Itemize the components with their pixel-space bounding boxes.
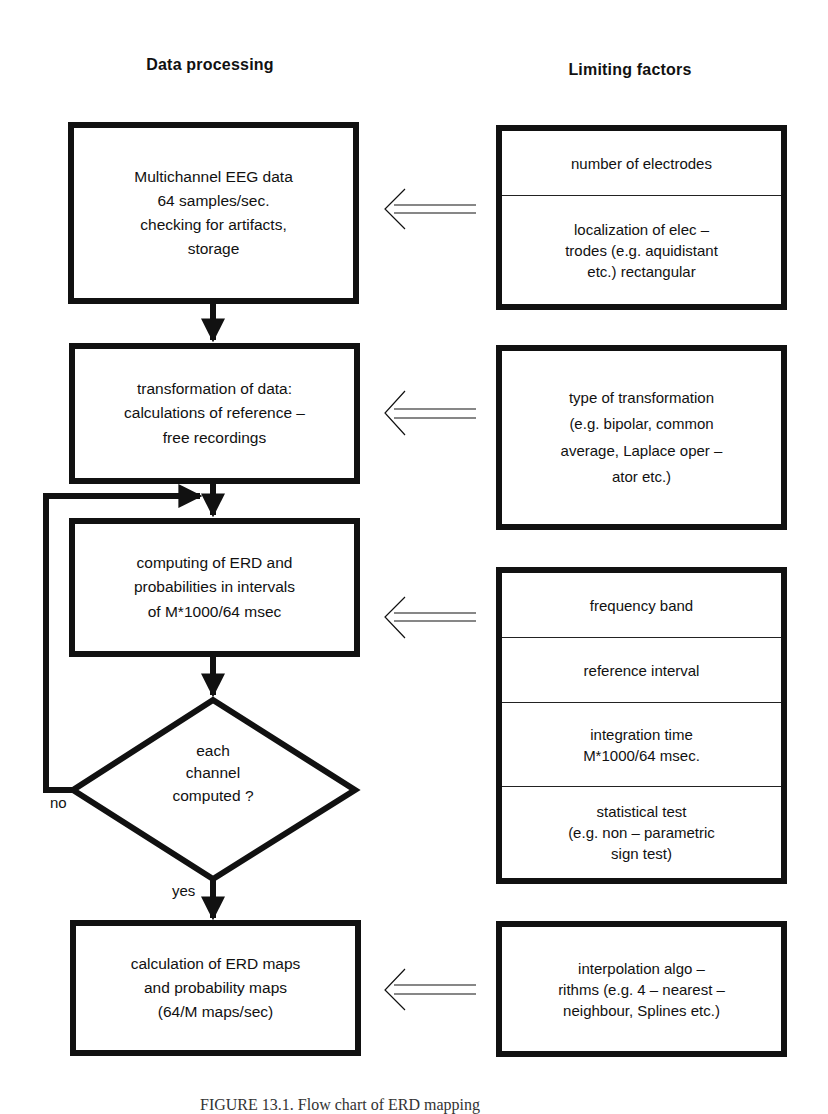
factor-transformation-type: type of transformation (e.g. bipolar, co… [502, 351, 781, 524]
double-line-left-arrow-icon [385, 391, 476, 435]
no-branch-label: no [50, 794, 67, 811]
factor-statistical-test: statistical test (e.g. non – parametric … [502, 786, 781, 878]
process-step-eeg-data: Multichannel EEG data 64 samples/sec. ch… [68, 122, 359, 304]
data-processing-heading: Data processing [110, 56, 310, 74]
factor-group-transformation: type of transformation (e.g. bipolar, co… [496, 345, 787, 530]
factor-interpolation-algorithms: interpolation algo – rithms (e.g. 4 – ne… [502, 927, 781, 1051]
factor-group-computation: frequency band reference interval integr… [496, 567, 787, 884]
factor-reference-interval: reference interval [502, 637, 781, 702]
process-step-erd-maps: calculation of ERD maps and probability … [70, 920, 361, 1056]
factor-number-of-electrodes: number of electrodes [502, 131, 781, 195]
factor-electrode-localization: localization of elec – trodes (e.g. aqui… [502, 195, 781, 304]
process-step-compute-erd: computing of ERD and probabilities in in… [69, 518, 360, 657]
factor-group-interpolation: interpolation algo – rithms (e.g. 4 – ne… [496, 921, 787, 1057]
process-step-transformation: transformation of data: calculations of … [69, 343, 360, 484]
factor-frequency-band: frequency band [502, 573, 781, 637]
double-line-left-arrow-icon [385, 969, 476, 1010]
factor-integration-time: integration time M*1000/64 msec. [502, 702, 781, 786]
double-line-left-arrow-icon [385, 597, 476, 638]
yes-branch-label: yes [172, 882, 195, 899]
decision-text: each channel computed ? [133, 740, 293, 807]
limiting-factors-heading: Limiting factors [530, 61, 730, 79]
figure-caption: FIGURE 13.1. Flow chart of ERD mapping [200, 1096, 480, 1114]
factor-group-electrodes: number of electrodes localization of ele… [496, 125, 787, 310]
double-line-left-arrow-icon [385, 189, 476, 229]
